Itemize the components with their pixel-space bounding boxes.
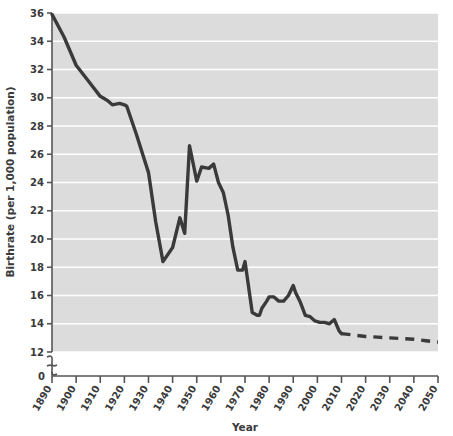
y-axis-title: Birthrate (per 1,000 population) (4, 87, 16, 278)
x-tick-label-2050: 2050 (416, 383, 439, 413)
y-tick-label-12: 12 (30, 347, 44, 358)
y-tick-label-22: 22 (30, 205, 44, 216)
y-tick-label-24: 24 (30, 177, 44, 188)
x-axis-ticks: 1890190019101920193019401950196019701980… (30, 376, 439, 413)
x-tick-label-2040: 2040 (392, 383, 415, 413)
x-tick-label-1920: 1920 (103, 383, 126, 413)
y-tick-label-18: 18 (30, 262, 44, 273)
y-tick-label-16: 16 (30, 290, 44, 301)
x-tick-label-1980: 1980 (247, 383, 270, 413)
y-tick-label-26: 26 (30, 149, 44, 160)
x-tick-label-1950: 1950 (175, 383, 198, 413)
x-tick-label-1930: 1930 (127, 383, 150, 413)
x-tick-label-1970: 1970 (223, 383, 246, 413)
y-tick-label-14: 14 (30, 318, 44, 329)
x-tick-label-2030: 2030 (368, 383, 391, 413)
y-tick-label-34: 34 (30, 36, 44, 47)
chart-canvas: 12141618202224262830323436 0 18901900191… (0, 0, 453, 436)
x-tick-label-1940: 1940 (151, 383, 174, 413)
birthrate-chart: 12141618202224262830323436 0 18901900191… (0, 0, 453, 436)
y-tick-label-32: 32 (30, 64, 44, 75)
y-tick-label-36: 36 (30, 8, 44, 19)
x-tick-label-1990: 1990 (272, 383, 295, 413)
y-tick-label-28: 28 (30, 121, 44, 132)
x-tick-label-1900: 1900 (54, 383, 77, 413)
x-tick-label-1910: 1910 (79, 383, 102, 413)
y-tick-label-30: 30 (30, 92, 44, 103)
x-tick-label-2000: 2000 (296, 383, 319, 413)
x-axis-title: Year (231, 421, 259, 433)
x-tick-label-2020: 2020 (344, 383, 367, 413)
y-axis-ticks: 12141618202224262830323436 (30, 8, 52, 358)
x-tick-label-1890: 1890 (30, 383, 53, 413)
x-tick-label-1960: 1960 (199, 383, 222, 413)
x-tick-label-2010: 2010 (320, 383, 343, 413)
y-tick-label-zero: 0 (38, 371, 45, 382)
y-tick-label-20: 20 (30, 234, 44, 245)
